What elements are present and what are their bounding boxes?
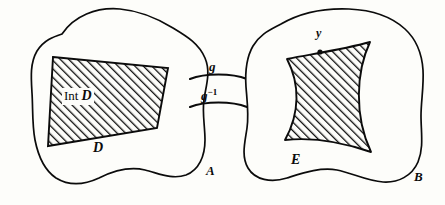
interior-label-int-word: Int <box>64 88 78 103</box>
set-b-group <box>244 9 423 182</box>
point-y-marker <box>317 49 322 54</box>
interior-label-set-letter: D <box>81 88 91 103</box>
set-label-a: A <box>206 164 215 177</box>
interior-label-int-d: IntD <box>62 88 94 105</box>
region-label-e: E <box>291 153 300 167</box>
point-label-y: y <box>316 27 321 39</box>
map-label-g-inverse-exponent: −1 <box>208 87 218 97</box>
set-label-b: B <box>414 170 423 183</box>
region-label-d: D <box>93 141 103 155</box>
math-diagram-figure: A B D E IntD y g g−1 <box>0 0 445 205</box>
map-label-g: g <box>209 60 216 73</box>
map-label-g-inverse: g−1 <box>201 89 217 102</box>
set-a-group <box>31 9 208 184</box>
